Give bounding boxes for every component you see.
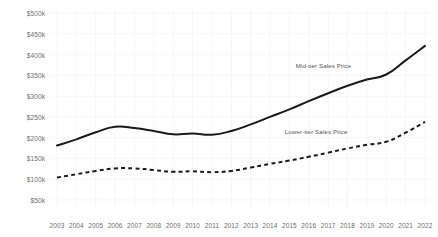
x-axis-tick-label: 2013 xyxy=(243,222,258,229)
x-axis-tick-label: 2006 xyxy=(108,222,123,229)
sales-price-line-chart: $500k$450k$400k$350k$300k$250k$200k$150k… xyxy=(0,0,438,237)
x-axis-tick-label: 2003 xyxy=(50,222,65,229)
x-axis-tick-label: 2005 xyxy=(88,222,103,229)
y-axis-tick-label: $350k xyxy=(0,72,45,79)
gridlines-group xyxy=(50,10,431,210)
series-line-mid-tier xyxy=(57,46,425,146)
y-axis-tick-label: $250k xyxy=(0,113,45,120)
chart-plot-area xyxy=(0,0,438,237)
series-line-lower-tier xyxy=(57,122,425,178)
y-axis-tick-label: $500k xyxy=(0,10,45,17)
x-axis-tick-label: 2010 xyxy=(185,222,200,229)
x-axis-tick-label: 2016 xyxy=(301,222,316,229)
x-axis-tick-label: 2007 xyxy=(127,222,142,229)
y-axis-tick-label: $450k xyxy=(0,30,45,37)
y-axis-tick-label: $200k xyxy=(0,134,45,141)
y-axis-tick-label: $100k xyxy=(0,176,45,183)
x-axis-tick-label: 2018 xyxy=(340,222,355,229)
x-axis-tick-label: 2004 xyxy=(69,222,84,229)
x-axis-tick-label: 2012 xyxy=(224,222,239,229)
x-axis-tick-label: 2015 xyxy=(282,222,297,229)
x-axis-tick-label: 2011 xyxy=(205,222,219,229)
y-axis-tick-label: $400k xyxy=(0,51,45,58)
series-label-mid-tier: Mid-tier Sales Price xyxy=(296,62,352,69)
y-axis-tick-label: $150k xyxy=(0,155,45,162)
x-axis-tick-label: 2014 xyxy=(263,222,278,229)
x-axis-tick-label: 2020 xyxy=(379,222,394,229)
x-axis-tick-label: 2022 xyxy=(418,222,433,229)
x-axis-tick-label: 2019 xyxy=(359,222,374,229)
y-axis-tick-label: $300k xyxy=(0,93,45,100)
x-axis-tick-label: 2021 xyxy=(398,222,413,229)
x-axis-tick-label: 2017 xyxy=(321,222,336,229)
series-lines-group xyxy=(57,46,425,178)
x-axis-tick-label: 2009 xyxy=(166,222,181,229)
series-label-lower-tier: Lower-tier Sales Price xyxy=(285,128,348,135)
y-axis-tick-label: $50k xyxy=(0,197,45,204)
x-axis-tick-label: 2008 xyxy=(146,222,161,229)
